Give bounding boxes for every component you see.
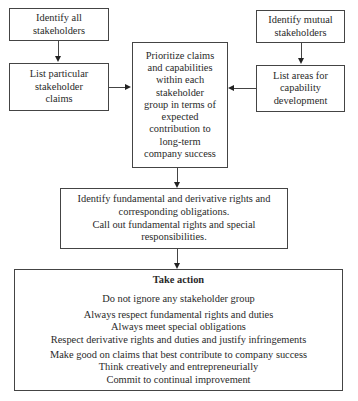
action-group: Make good on claims that best contribute… xyxy=(50,349,307,386)
action-item: Commit to continual improvement xyxy=(50,374,307,386)
arrow-down-icon xyxy=(55,56,61,62)
connector-line xyxy=(177,249,178,263)
node-list-stakeholder-claims: List particular stakeholder claims xyxy=(9,63,109,111)
node-text-line: List areas for xyxy=(273,70,328,83)
node-text-line: List particular xyxy=(30,68,89,81)
node-text-line: and capabilities xyxy=(148,62,213,74)
node-text-line: Identify all xyxy=(36,12,82,25)
node-text-line: Identify mutual xyxy=(268,14,332,27)
node-text-line: expected xyxy=(162,111,199,123)
node-text-line: group in terms of xyxy=(144,99,216,111)
node-text-line: stakeholder xyxy=(156,87,204,99)
node-text-line: long-term xyxy=(160,136,201,148)
action-item: Always respect fundamental rights and du… xyxy=(51,309,306,321)
node-text-line: Prioritize claims xyxy=(146,50,214,62)
connector-line xyxy=(109,87,126,88)
node-text-line: stakeholders xyxy=(275,27,327,40)
node-text-line: development xyxy=(274,95,328,108)
connector-line xyxy=(177,168,178,183)
node-text-line: Identify fundamental and derivative righ… xyxy=(77,193,270,206)
action-item: Respect derivative rights and duties and… xyxy=(51,334,306,346)
node-text-line: stakeholders xyxy=(33,25,85,38)
node-take-action: Take action Do not ignore any stakeholde… xyxy=(14,269,343,391)
node-prioritize-claims: Prioritize claims and capabilities withi… xyxy=(132,42,228,168)
node-text-line: responsibilities. xyxy=(141,231,207,244)
node-identify-rights: Identify fundamental and derivative righ… xyxy=(60,188,288,249)
arrow-left-icon xyxy=(228,85,234,91)
action-item: Think creatively and entrepreneurially xyxy=(50,361,307,373)
node-text-line: contribution to xyxy=(149,123,210,135)
action-item: Always meet special obligations xyxy=(51,321,306,333)
action-group: Do not ignore any stakeholder group xyxy=(102,293,255,305)
node-list-capability-areas: List areas for capability development xyxy=(256,65,345,112)
node-text-line: capability xyxy=(280,82,321,95)
node-text-line: claims xyxy=(45,93,72,106)
connector-line xyxy=(301,43,302,59)
action-item: Do not ignore any stakeholder group xyxy=(102,293,255,305)
arrow-down-icon xyxy=(298,58,304,64)
node-identify-mutual-stakeholders: Identify mutual stakeholders xyxy=(256,10,345,43)
node-text-line: stakeholder xyxy=(35,81,83,94)
node-identify-all-stakeholders: Identify all stakeholders xyxy=(9,8,109,41)
node-text-line: Call out fundamental rights and special xyxy=(92,219,255,232)
arrow-right-icon xyxy=(125,84,131,90)
connector-line xyxy=(58,41,59,57)
node-text-line: corresponding obligations. xyxy=(119,206,230,219)
connector-line xyxy=(233,88,256,89)
node-text-line: company success xyxy=(144,148,216,160)
node-text-line: within each xyxy=(156,74,204,86)
action-item: Make good on claims that best contribute… xyxy=(50,349,307,361)
figure-caption-cutoff xyxy=(40,393,340,401)
action-group: Always respect fundamental rights and du… xyxy=(51,309,306,346)
take-action-title: Take action xyxy=(153,274,204,286)
